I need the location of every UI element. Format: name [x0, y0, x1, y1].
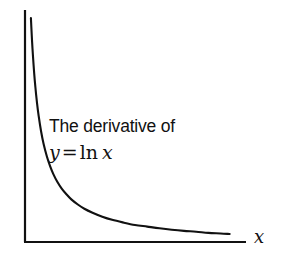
annotation-line-one: The derivative of [49, 116, 224, 136]
annotation-equals-sign: = [60, 141, 80, 163]
plot-annotation: The derivative of y=lnx [49, 116, 224, 164]
annotation-log-operator: ln [80, 141, 98, 163]
annotation-line-two: y=lnx [49, 140, 224, 164]
annotation-variable-x: x [98, 141, 113, 163]
x-axis-label: x [254, 228, 264, 246]
annotation-variable-y: y [49, 141, 60, 163]
figure-canvas: The derivative of y=lnx x [0, 0, 281, 265]
